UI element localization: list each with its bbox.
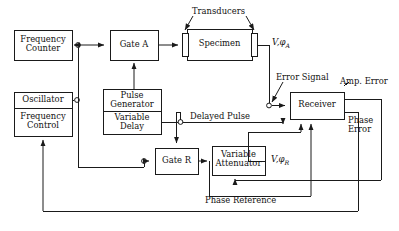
label-signal-a: V,φA [272,38,290,49]
label-phase-reference: Phase Reference [205,196,276,205]
label-signal-r: V,φR [271,155,289,166]
label-frequency-control: Frequency Control [14,112,72,130]
signal-a-subscript: A [285,42,289,49]
frequency-counter-line2: Counter [14,44,72,53]
label-specimen: Specimen [187,39,252,48]
junction-delayed-pulse [178,120,183,125]
junction-gate-r-in [142,159,147,164]
gate-r-line1: Gate R [155,156,198,165]
label-oscillator: Oscillator [14,95,72,104]
frequency-control-line2: Control [14,121,72,130]
label-amp-error: Amp. Error [340,77,388,86]
pulse-generator-line2: Generator [103,100,161,109]
leader-transducer-left [185,16,193,30]
label-variable-attenuator: Variable Attenuator [211,150,266,168]
leader-transducer-right [246,16,254,30]
label-error-signal: Error Signal [276,73,329,82]
label-frequency-counter: Frequency Counter [14,35,72,53]
label-pulse-generator: Pulse Generator [103,91,161,109]
label-gate-r: Gate R [155,156,198,165]
variable-attenuator-line2: Attenuator [211,159,266,168]
label-delayed-pulse: Delayed Pulse [190,112,250,121]
phase-error-line2: Error [348,125,373,134]
label-variable-delay: Variable Delay [103,113,161,131]
junction-osc-top [76,43,81,48]
oscillator-line1: Oscillator [14,95,72,104]
specimen-line1: Specimen [187,39,252,48]
signal-r-subscript: R [284,159,289,166]
label-gate-a: Gate A [110,40,158,49]
label-phase-error: Phase Error [348,116,373,134]
label-transducers: Transducers [192,7,245,16]
junction-oscillator-out [75,98,80,103]
gate-a-line1: Gate A [110,40,158,49]
block-diagram-canvas: Frequency Counter Oscillator Frequency C… [0,0,399,231]
receiver-line1: Receiver [290,100,344,109]
leader-error-signal [272,82,283,102]
label-receiver: Receiver [290,100,344,109]
variable-delay-line2: Delay [103,122,161,131]
junction-error-signal [267,103,272,108]
